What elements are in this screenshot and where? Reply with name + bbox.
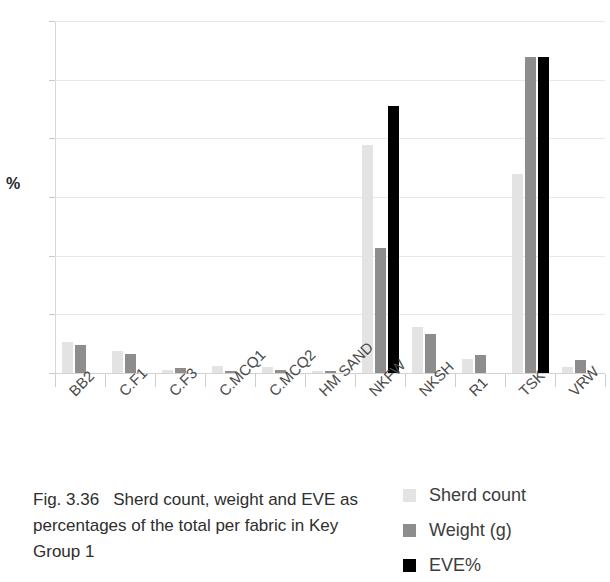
bar-sherd-tsk bbox=[512, 174, 523, 373]
bar-weight-r1 bbox=[475, 355, 486, 373]
legend-label-1: Weight (g) bbox=[429, 520, 512, 541]
bar-group-bb2 bbox=[55, 21, 105, 373]
bar-group-c-mcq1 bbox=[205, 21, 255, 373]
bar-sherd-r1 bbox=[462, 359, 473, 373]
bar-group-nksh bbox=[405, 21, 455, 373]
bar-group-r1 bbox=[455, 21, 505, 373]
x-tick-mark-3 bbox=[205, 374, 206, 387]
legend-item-sherdcount: Sherd count bbox=[403, 478, 610, 513]
x-tick-mark-7 bbox=[405, 374, 406, 387]
bar-eve-nkfw bbox=[388, 106, 399, 373]
x-tick-mark-2 bbox=[155, 374, 156, 387]
legend-label-2: EVE% bbox=[429, 555, 481, 576]
y-axis-title: % bbox=[6, 175, 20, 193]
y-tick-mark-50 bbox=[49, 80, 55, 81]
bar-sherd-c-mcq2 bbox=[262, 367, 273, 373]
bar-sherd-c-f3 bbox=[162, 370, 173, 373]
bar-sherd-nksh bbox=[412, 327, 423, 373]
legend-swatch-icon-0 bbox=[403, 489, 416, 502]
bar-weight-tsk bbox=[525, 57, 536, 373]
bar-group-c-f3 bbox=[155, 21, 205, 373]
bar-group-nkfw bbox=[355, 21, 405, 373]
bar-sherd-c-mcq1 bbox=[212, 366, 223, 373]
bar-sherd-hm-sand bbox=[312, 371, 323, 373]
figure-container: % Sherd countWeight (g)EVE% Fig. 3.36She… bbox=[0, 0, 610, 582]
bar-weight-nkfw bbox=[375, 248, 386, 373]
bar-group-tsk bbox=[505, 21, 555, 373]
legend-swatch-icon-2 bbox=[403, 559, 416, 572]
chart-legend: Sherd countWeight (g)EVE% bbox=[403, 478, 610, 582]
y-tick-mark-60 bbox=[49, 21, 55, 22]
y-tick-mark-20 bbox=[49, 256, 55, 257]
bar-group-c-f1 bbox=[105, 21, 155, 373]
legend-swatch-icon-1 bbox=[403, 524, 416, 537]
bar-group-c-mcq2 bbox=[255, 21, 305, 373]
x-tick-mark-end bbox=[605, 374, 606, 387]
figure-number: Fig. 3.36 bbox=[33, 490, 99, 509]
x-tick-mark-10 bbox=[555, 374, 556, 387]
x-tick-mark-9 bbox=[505, 374, 506, 387]
bar-group-vrw bbox=[555, 21, 605, 373]
x-tick-mark-5 bbox=[305, 374, 306, 387]
bar-sherd-c-f1 bbox=[112, 351, 123, 373]
legend-item-eve: EVE% bbox=[403, 548, 610, 582]
x-axis-label-r1: R1 bbox=[466, 374, 490, 398]
plot-area bbox=[55, 21, 605, 373]
x-tick-mark-1 bbox=[105, 374, 106, 387]
y-tick-mark-30 bbox=[49, 197, 55, 198]
x-tick-mark-8 bbox=[455, 374, 456, 387]
x-tick-mark-4 bbox=[255, 374, 256, 387]
bar-group-hm-sand bbox=[305, 21, 355, 373]
bar-eve-tsk bbox=[538, 57, 549, 373]
legend-label-0: Sherd count bbox=[429, 485, 526, 506]
bar-sherd-vrw bbox=[562, 367, 573, 373]
bar-sherd-bb2 bbox=[62, 342, 73, 373]
legend-item-weightg: Weight (g) bbox=[403, 513, 610, 548]
y-tick-mark-40 bbox=[49, 138, 55, 139]
x-tick-mark-0 bbox=[55, 374, 56, 387]
y-tick-mark-10 bbox=[49, 314, 55, 315]
figure-caption: Fig. 3.36Sherd count, weight and EVE as … bbox=[33, 487, 363, 565]
x-tick-mark-6 bbox=[355, 374, 356, 387]
